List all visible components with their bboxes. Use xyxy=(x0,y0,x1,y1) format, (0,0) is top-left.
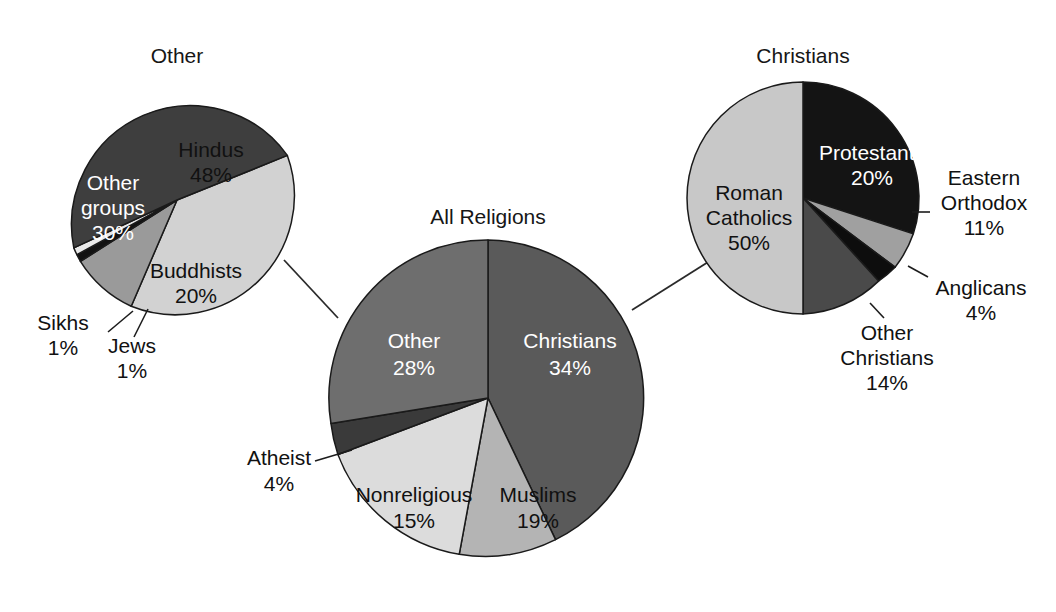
slice-label-roman-catholics-line1: Roman xyxy=(715,181,783,204)
slice-value-other: 28% xyxy=(393,356,435,379)
slice-label-nonreligious: Nonreligious xyxy=(356,483,473,506)
slice-label-eastern-orthodox-line1: Eastern xyxy=(948,166,1020,189)
slice-value-protestants: 20% xyxy=(851,166,893,189)
leader-line-jews xyxy=(134,309,148,337)
slice-value-hindus: 48% xyxy=(190,163,232,186)
slice-label-other: Other xyxy=(388,329,441,352)
slice-value-sikhs: 1% xyxy=(48,336,78,359)
slice-label-eastern-orthodox-line2: Orthodox xyxy=(941,191,1028,214)
slice-value-anglicans: 4% xyxy=(966,301,996,324)
slice-label-roman-catholics-line2: Catholics xyxy=(706,206,792,229)
slice-value-nonreligious: 15% xyxy=(393,509,435,532)
slice-label-other-christians-line2: Christians xyxy=(840,346,933,369)
slice-value-atheist: 4% xyxy=(264,472,294,495)
figure-canvas: Other Hindus 48% Buddhists 20% Other gro… xyxy=(0,0,1056,612)
pie-all-religions[interactable]: All Religions Christians 34% Muslims 19%… xyxy=(247,205,644,556)
leader-line-anglicans xyxy=(908,266,928,277)
slice-label-sikhs: Sikhs xyxy=(37,311,88,334)
slice-value-other-groups: 30% xyxy=(92,221,134,244)
slice-value-buddhists: 20% xyxy=(175,284,217,307)
slice-label-other-christians-line1: Other xyxy=(861,321,914,344)
slice-label-protestants: Protestants xyxy=(819,141,925,164)
slice-label-hindus: Hindus xyxy=(178,138,243,161)
slice-label-jews: Jews xyxy=(108,334,156,357)
slice-value-muslims: 19% xyxy=(517,509,559,532)
slice-label-other-groups-line1: Other xyxy=(87,171,140,194)
pie-christians[interactable]: Christians Protestants 20% Roman Catholi… xyxy=(687,44,1028,394)
slice-label-christians: Christians xyxy=(523,329,616,352)
pie-other-religions[interactable]: Other Hindus 48% Buddhists 20% Other gro… xyxy=(37,44,294,382)
pie-title-all-religions: All Religions xyxy=(430,205,546,228)
pie-chart-figure: Other Hindus 48% Buddhists 20% Other gro… xyxy=(0,0,1056,612)
pie-title-other: Other xyxy=(151,44,204,67)
slice-value-jews: 1% xyxy=(117,359,147,382)
leader-line-sikhs xyxy=(108,311,133,332)
slice-value-eastern-orthodox: 11% xyxy=(964,216,1004,239)
leader-line-other-christians xyxy=(870,303,884,318)
slice-label-other-groups-line2: groups xyxy=(81,196,145,219)
slice-label-atheist: Atheist xyxy=(247,446,311,469)
connector-left-to-center xyxy=(284,260,338,318)
slice-label-muslims: Muslims xyxy=(500,483,577,506)
pie-title-christians: Christians xyxy=(756,44,849,67)
slice-value-christians: 34% xyxy=(549,356,591,379)
slice-label-anglicans: Anglicans xyxy=(935,276,1026,299)
slice-label-buddhists: Buddhists xyxy=(150,259,242,282)
slice-value-other-christians: 14% xyxy=(866,371,908,394)
slice-value-roman-catholics: 50% xyxy=(728,231,770,254)
